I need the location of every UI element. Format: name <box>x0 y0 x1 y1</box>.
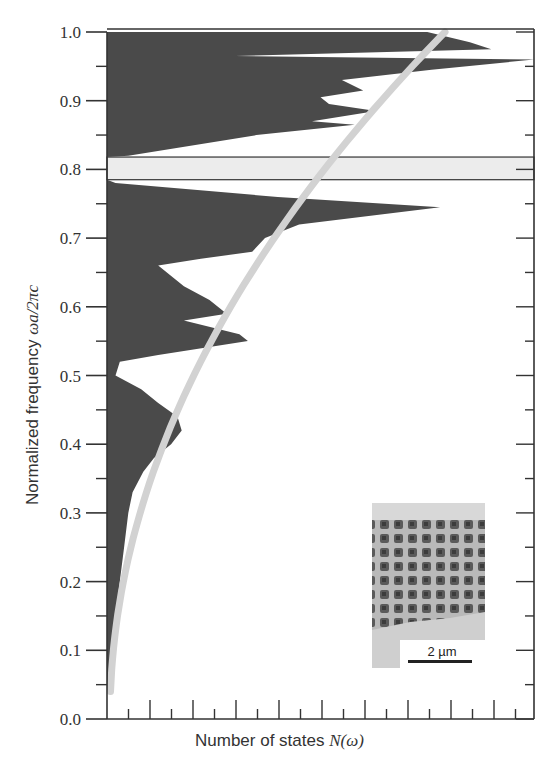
y-tick-label: 0.1 <box>60 641 81 660</box>
y-tick-label: 0.0 <box>60 710 81 729</box>
y-tick-label: 0.6 <box>60 298 81 317</box>
dos-chart: 0.00.10.20.30.40.50.60.70.80.91.0 Normal… <box>0 0 560 778</box>
y-tick-label: 0.9 <box>60 92 81 111</box>
y-tick-label: 0.8 <box>60 160 81 179</box>
y-tick-label: 0.3 <box>60 504 81 523</box>
y-axis-label: Normalized frequency ωa/2πc <box>23 285 42 505</box>
y-tick-label: 0.4 <box>60 435 82 454</box>
y-tick-label: 0.2 <box>60 573 81 592</box>
y-tick-label: 1.0 <box>60 23 81 42</box>
scale-bar-label: 2 µm <box>427 644 456 659</box>
x-axis-label: Number of states N(ω) <box>195 731 364 750</box>
x-axis-ticks <box>129 700 516 719</box>
y-tick-label: 0.7 <box>60 229 82 248</box>
scale-bar <box>408 660 472 663</box>
sem-inset-image: 2 µm <box>372 503 485 668</box>
y-tick-label: 0.5 <box>60 367 81 386</box>
